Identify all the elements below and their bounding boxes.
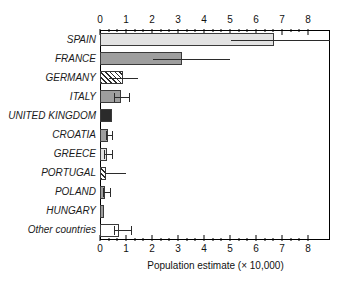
error-bar-spain [231,40,330,41]
error-bar-france [153,59,230,60]
y-axis-label-germany: GERMANY [0,73,96,83]
axis-tick-label: 2 [142,243,162,254]
x-axis-title: Population estimate (× 10,000) [100,260,331,271]
axis-tick-label: 5 [220,243,240,254]
axis-tick-label: 1 [116,14,136,25]
axis-tick-label: 4 [194,14,214,25]
error-bar-portugal [105,173,126,174]
y-axis-category-labels: SPAINFRANCEGERMANYITALYUNITED KINGDOMCRO… [0,30,96,240]
axis-tick-label: 6 [246,243,266,254]
y-axis-label-united-kingdom: UNITED KINGDOM [0,111,96,121]
error-bar-cap [129,93,130,102]
error-bar-poland [103,192,110,193]
y-axis-label-poland: POLAND [0,187,96,197]
y-axis-label-italy: ITALY [0,92,96,102]
error-bar-cap [131,226,132,235]
y-axis-label-france: FRANCE [0,54,96,64]
error-bar-italy [114,97,129,98]
axis-tick-label: 4 [194,243,214,254]
axis-tick-label: 7 [272,14,292,25]
y-axis-label-spain: SPAIN [0,35,96,45]
error-bar-croatia [106,135,113,136]
error-bar-cap [112,150,113,159]
error-bar-cap [114,93,115,102]
axis-tick-label: 6 [246,14,266,25]
error-bar-germany [109,78,138,79]
axis-tick-label: 8 [298,14,318,25]
y-axis-label-other-countries: Other countries [0,225,96,235]
axis-tick-label: 1 [116,243,136,254]
error-bar-cap [112,131,113,140]
bar-series [100,30,330,240]
error-bar-cap [104,150,105,159]
axis-tick-label: 0 [90,14,110,25]
y-axis-label-greece: GREECE [0,149,96,159]
axis-tick-label: 8 [298,243,318,254]
y-axis-label-hungary: HUNGARY [0,206,96,216]
error-bar-other-countries [114,230,131,231]
axis-tick-label: 0 [90,243,110,254]
error-bar-cap [106,131,107,140]
axis-tick-label: 3 [168,243,188,254]
error-bar-cap [103,188,104,197]
y-axis-label-portugal: PORTUGAL [0,168,96,178]
axis-tick-label: 3 [168,14,188,25]
y-axis-label-croatia: CROATIA [0,130,96,140]
axis-tick-label: 7 [272,243,292,254]
axis-tick-label: 5 [220,14,240,25]
error-bar-cap [110,188,111,197]
bar-united-kingdom [100,109,112,122]
population-estimate-bar-chart: 012345678 012345678 SPAINFRANCEGERMANYIT… [0,0,354,287]
bar-hungary [100,205,104,218]
axis-tick-label: 2 [142,14,162,25]
error-bar-cap [114,226,115,235]
error-bar-greece [104,154,112,155]
